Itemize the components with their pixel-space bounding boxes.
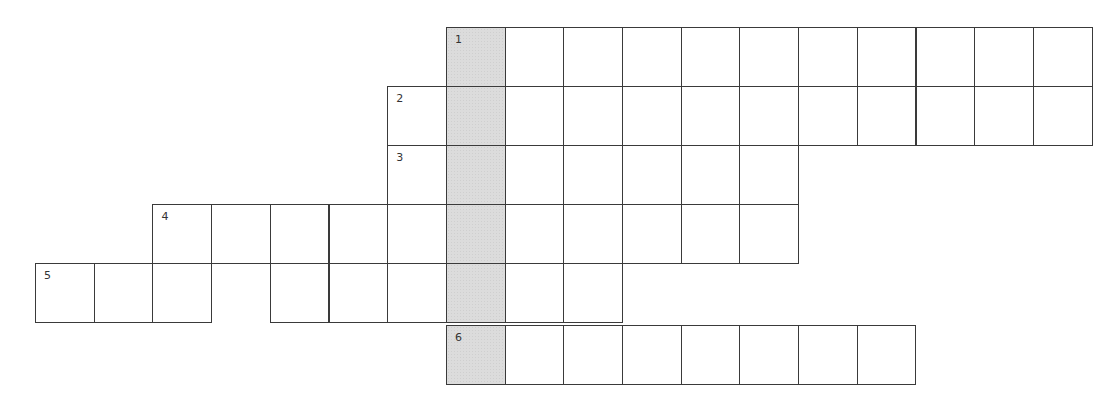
crossword-cell[interactable] [563,204,623,264]
crossword-cell[interactable] [739,27,799,87]
crossword-cell[interactable] [857,27,917,87]
crossword-cell[interactable] [1033,86,1093,146]
clue-number: 1 [455,33,462,46]
crossword-cell[interactable] [270,263,330,323]
crossword-cell[interactable] [798,325,858,385]
clue-number: 2 [396,92,403,105]
crossword-grid: 123456 [0,0,1115,411]
crossword-cell[interactable] [857,325,917,385]
crossword-cell[interactable] [622,145,682,205]
crossword-cell[interactable] [622,204,682,264]
crossword-cell[interactable] [622,86,682,146]
crossword-cell[interactable] [446,145,506,205]
crossword-cell[interactable] [505,263,565,323]
crossword-cell[interactable] [974,27,1034,87]
crossword-cell[interactable] [563,27,623,87]
crossword-cell[interactable] [505,325,565,385]
clue-number: 3 [396,151,403,164]
crossword-cell[interactable] [798,27,858,87]
crossword-cell[interactable]: 5 [35,263,95,323]
crossword-cell[interactable] [681,145,741,205]
crossword-cell[interactable] [739,325,799,385]
crossword-cell[interactable] [211,204,271,264]
crossword-cell[interactable] [387,263,447,323]
clue-number: 4 [161,210,168,223]
crossword-cell[interactable]: 6 [446,325,506,385]
crossword-cell[interactable] [622,325,682,385]
crossword-cell[interactable] [446,263,506,323]
crossword-cell[interactable]: 1 [446,27,506,87]
crossword-cell[interactable] [329,204,389,264]
crossword-cell[interactable] [505,86,565,146]
crossword-cell[interactable] [681,204,741,264]
crossword-cell[interactable] [857,86,917,146]
crossword-cell[interactable]: 3 [387,145,447,205]
clue-number: 5 [44,269,51,282]
crossword-cell[interactable] [798,86,858,146]
crossword-cell[interactable] [681,27,741,87]
crossword-cell[interactable] [739,86,799,146]
crossword-cell[interactable] [1033,27,1093,87]
crossword-cell[interactable] [505,204,565,264]
crossword-cell[interactable] [270,204,330,264]
crossword-cell[interactable] [563,263,623,323]
crossword-cell[interactable] [563,325,623,385]
crossword-cell[interactable] [152,263,212,323]
crossword-cell[interactable] [329,263,389,323]
crossword-cell[interactable] [446,204,506,264]
crossword-cell[interactable] [974,86,1034,146]
crossword-cell[interactable] [387,204,447,264]
crossword-cell[interactable] [505,145,565,205]
crossword-cell[interactable] [681,325,741,385]
crossword-cell[interactable] [563,145,623,205]
crossword-cell[interactable] [916,27,976,87]
crossword-cell[interactable] [681,86,741,146]
crossword-cell[interactable] [739,145,799,205]
crossword-cell[interactable] [563,86,623,146]
clue-number: 6 [455,331,462,344]
crossword-cell[interactable] [739,204,799,264]
crossword-cell[interactable] [916,86,976,146]
crossword-cell[interactable] [446,86,506,146]
crossword-cell[interactable] [622,27,682,87]
crossword-cell[interactable] [94,263,154,323]
crossword-cell[interactable]: 4 [152,204,212,264]
crossword-cell[interactable] [505,27,565,87]
crossword-cell[interactable]: 2 [387,86,447,146]
